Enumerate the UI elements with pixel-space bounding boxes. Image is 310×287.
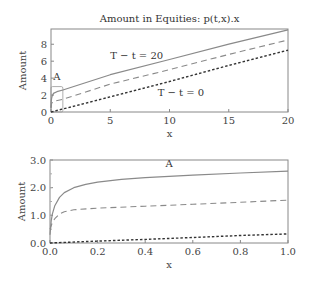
x-tick-label: 5 (107, 115, 113, 126)
series-line-dotted (50, 234, 288, 243)
y-tick-label: 3.0 (30, 155, 46, 166)
x-axis-label: x (167, 128, 173, 139)
chart-title: Amount in Equities: p(t,x).x (99, 13, 240, 24)
bottom-chart: 0.00.20.40.60.81.00.01.02.03.0xAmountA (16, 155, 296, 271)
x-tick-label: 15 (222, 115, 235, 126)
y-tick-label: 8 (41, 39, 47, 50)
y-tick-label: 2.0 (30, 182, 46, 193)
plot-frame (51, 29, 288, 112)
y-tick-label: 0 (41, 107, 47, 118)
x-tick-label: 0.4 (137, 246, 153, 257)
annotation: T − t = 0 (158, 87, 205, 98)
x-tick-label: 10 (163, 115, 176, 126)
annotation: A (52, 71, 61, 82)
x-tick-label: 1.0 (280, 246, 296, 257)
top-chart: Amount in Equities: p(t,x).x051015200246… (17, 13, 294, 139)
y-axis-label: Amount (17, 51, 28, 92)
x-tick-label: 0 (48, 115, 54, 126)
annotation: A (164, 158, 173, 169)
y-tick-label: 0.0 (30, 238, 46, 249)
x-tick-label: 0.6 (185, 246, 201, 257)
y-tick-label: 6 (41, 56, 47, 67)
x-axis-label: x (166, 259, 172, 270)
y-tick-label: 4 (41, 73, 47, 84)
y-tick-label: 2 (41, 90, 47, 101)
y-axis-label: Amount (16, 182, 27, 223)
x-tick-label: 0.8 (232, 246, 248, 257)
x-tick-label: 20 (282, 115, 295, 126)
x-tick-label: 0.2 (90, 246, 106, 257)
y-tick-label: 1.0 (30, 210, 46, 221)
figure: Amount in Equities: p(t,x).x051015200246… (0, 0, 310, 287)
annotation: T − t = 20 (110, 50, 163, 61)
series-line-solid (50, 171, 288, 235)
series-line-dashed (50, 200, 288, 229)
